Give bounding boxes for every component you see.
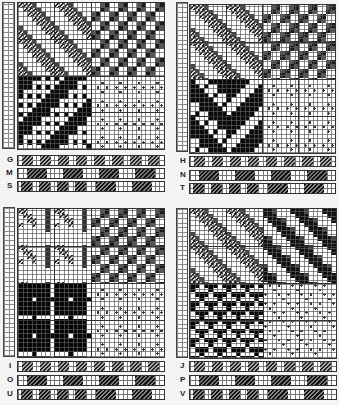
- draft-panel-bottom-right: J P V: [0, 0, 339, 405]
- strip-label: J: [180, 361, 184, 370]
- tieup-strip: [189, 375, 337, 386]
- drawdown-grid: [189, 208, 337, 359]
- strip-label: V: [180, 389, 185, 398]
- strip-label: P: [180, 375, 185, 384]
- tieup-strip: [189, 361, 337, 372]
- tieup-strip: [189, 389, 337, 400]
- threading-strip: [176, 208, 188, 358]
